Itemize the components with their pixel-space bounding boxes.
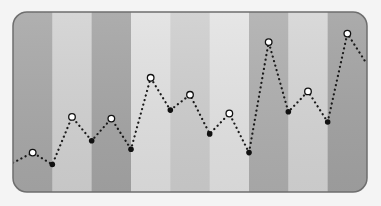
filled-circle-marker bbox=[128, 146, 134, 152]
open-circle-marker bbox=[305, 88, 312, 95]
open-circle-marker bbox=[147, 75, 154, 82]
open-circle-marker bbox=[187, 92, 194, 99]
filled-circle-marker bbox=[286, 109, 292, 115]
open-circle-marker bbox=[108, 115, 115, 122]
open-circle-marker bbox=[265, 39, 272, 46]
open-circle-marker bbox=[69, 114, 76, 121]
chart-panel bbox=[0, 0, 381, 206]
open-circle-marker bbox=[29, 149, 36, 156]
panel-shade bbox=[13, 12, 367, 192]
open-circle-marker bbox=[226, 110, 233, 117]
filled-circle-marker bbox=[325, 119, 331, 125]
filled-circle-marker bbox=[246, 150, 252, 156]
line-chart bbox=[0, 0, 381, 206]
filled-circle-marker bbox=[89, 138, 95, 144]
filled-circle-marker bbox=[168, 107, 174, 113]
open-circle-marker bbox=[344, 30, 351, 37]
filled-circle-marker bbox=[50, 162, 56, 168]
filled-circle-marker bbox=[207, 131, 213, 137]
